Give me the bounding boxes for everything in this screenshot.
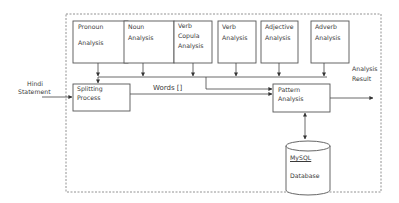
pronoun-analysis-label: Pronoun Analysis xyxy=(78,21,104,48)
noun-analysis-label: Noun Analysis xyxy=(128,21,154,43)
database-label-line1: MySQL xyxy=(290,153,311,162)
verb-line2: Analysis xyxy=(222,32,248,43)
adverb-line2: Analysis xyxy=(315,32,341,43)
verb-copula-analysis-label: Verb Copula Analysis xyxy=(178,21,204,51)
adjective-line2: Analysis xyxy=(265,32,294,43)
noun-line2: Analysis xyxy=(128,32,154,43)
input-label-line2: Statement xyxy=(18,87,51,96)
output-label-line2: Result xyxy=(352,74,371,83)
pronoun-line3: Analysis xyxy=(78,37,104,48)
pronoun-line1: Pronoun xyxy=(78,21,104,32)
words-edge-label: Words [] xyxy=(153,84,182,93)
verb-copula-line3: Analysis xyxy=(178,41,204,51)
adjective-line1: Adjective xyxy=(265,21,294,32)
pattern-line1: Pattern xyxy=(278,85,304,94)
adverb-line1: Adverb xyxy=(315,21,341,32)
adjective-analysis-label: Adjective Analysis xyxy=(265,21,294,43)
splitting-process-label: Splitting Process xyxy=(77,84,103,102)
verb-copula-line1: Verb xyxy=(178,21,204,31)
output-label-line1: Analysis xyxy=(352,64,378,73)
mysql-database-cylinder xyxy=(286,141,330,195)
splitting-line1: Splitting xyxy=(77,84,103,93)
noun-line1: Noun xyxy=(128,21,154,32)
verb-line1: Verb xyxy=(222,21,248,32)
database-label-line2: Database xyxy=(290,171,320,180)
verb-copula-line2: Copula xyxy=(178,31,204,41)
pattern-line2: Analysis xyxy=(278,94,304,103)
verb-analysis-label: Verb Analysis xyxy=(222,21,248,43)
pattern-analysis-label: Pattern Analysis xyxy=(278,85,304,103)
splitting-line2: Process xyxy=(77,93,103,102)
adverb-analysis-label: Adverb Analysis xyxy=(315,21,341,43)
